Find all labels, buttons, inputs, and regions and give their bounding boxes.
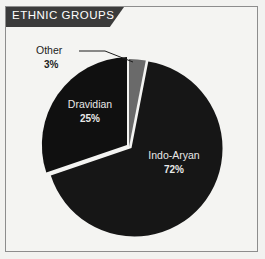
pie-label-other-value: 3% xyxy=(44,59,62,72)
page-title: ETHNIC GROUPS xyxy=(12,9,114,21)
pie-label-indo-aryan-value: 72% xyxy=(125,164,223,177)
pie-label-dravidian-value: 25% xyxy=(48,113,132,126)
pie-chart xyxy=(0,0,265,259)
pie-label-other: Other 3% xyxy=(36,44,62,72)
pie-label-dravidian-name: Dravidian xyxy=(48,98,132,111)
ethnic-groups-pie-figure: ETHNIC GROUPS Other 3% Dravidian 25% Ind… xyxy=(0,0,265,259)
pie-label-dravidian: Dravidian 25% xyxy=(48,98,132,126)
pie-label-indo-aryan: Indo-Aryan 72% xyxy=(125,149,223,177)
pie-label-indo-aryan-name: Indo-Aryan xyxy=(125,149,223,162)
pie-label-other-name: Other xyxy=(36,44,62,57)
